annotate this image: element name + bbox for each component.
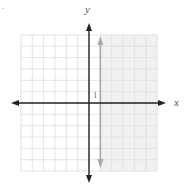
arrow-down-icon <box>86 175 92 183</box>
arrow-left-icon <box>11 100 19 106</box>
arrow-right-icon <box>158 100 166 106</box>
arrow-up-icon <box>86 23 92 31</box>
y-axis-label: y <box>85 4 90 15</box>
x-axis-label: x <box>174 97 179 108</box>
tick-label-1: 1 <box>93 91 98 100</box>
